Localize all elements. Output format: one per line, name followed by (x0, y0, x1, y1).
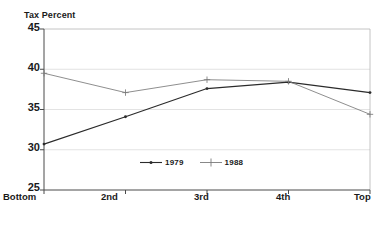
series-1988 (41, 70, 373, 117)
legend-item-1979[interactable]: 1979 (140, 158, 184, 167)
data-point-1988-2nd (122, 89, 128, 95)
chart-title (0, 0, 388, 2)
data-series-layer (41, 70, 373, 145)
x-tick-3rd: 3rd (194, 192, 209, 202)
x-tick-bottom: Bottom (3, 192, 36, 202)
data-point-1988-top (367, 111, 373, 117)
y-tick-30: 30 (18, 142, 40, 153)
legend-item-1988[interactable]: 1988 (200, 158, 244, 167)
data-point-1979-2nd (124, 115, 127, 118)
legend-label-1979: 1979 (165, 158, 184, 167)
y-tick-35: 35 (18, 102, 40, 113)
data-point-1979-bottom (43, 143, 46, 146)
x-tick-top: Top (354, 192, 371, 202)
series-1979 (43, 81, 372, 146)
data-point-1988-4th (285, 78, 291, 84)
legend: 1979 1988 (140, 156, 243, 168)
x-tick-2nd: 2nd (101, 192, 118, 202)
legend-label-1988: 1988 (225, 158, 244, 167)
x-tick-4th: 4th (276, 192, 290, 202)
y-tick-45: 45 (18, 22, 40, 33)
dot-line-marker-icon (140, 158, 162, 167)
data-point-1979-top (369, 91, 372, 94)
y-tick-marks (40, 29, 44, 190)
data-point-1988-bottom (41, 70, 47, 76)
series-line-1979 (44, 82, 370, 144)
data-point-1979-3rd (206, 87, 209, 90)
data-point-1988-3rd (204, 77, 210, 83)
y-tick-40: 40 (18, 62, 40, 73)
line-chart: Tax Percent 45 40 35 30 25 Bottom 2nd 3r… (0, 0, 388, 230)
plus-line-marker-icon (200, 158, 222, 167)
